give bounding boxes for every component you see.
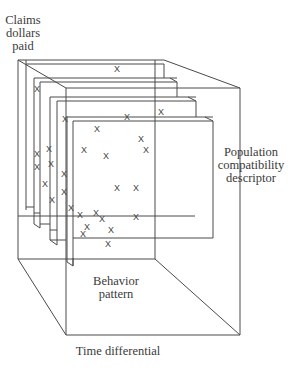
floor-label-line2: pattern [86, 288, 146, 301]
svg-text:X: X [133, 212, 139, 222]
svg-text:X: X [34, 162, 40, 172]
svg-text:X: X [61, 169, 67, 179]
svg-text:X: X [99, 214, 105, 224]
svg-text:X: X [68, 203, 74, 213]
svg-text:X: X [94, 124, 100, 134]
svg-text:X: X [114, 183, 120, 193]
plane-3 [50, 97, 196, 245]
svg-text:X: X [42, 179, 48, 189]
svg-text:X: X [124, 112, 130, 122]
svg-text:X: X [77, 210, 83, 220]
svg-text:X: X [62, 114, 68, 124]
y-axis-label: Claims dollars paid [3, 14, 43, 53]
z-axis-label-line3: descriptor [214, 172, 288, 185]
svg-text:X: X [105, 239, 111, 249]
svg-text:X: X [34, 149, 40, 159]
svg-text:X: X [49, 195, 55, 205]
z-axis-label: Population compatibility descriptor [214, 146, 288, 185]
svg-text:X: X [81, 145, 87, 155]
svg-text:X: X [138, 134, 144, 144]
svg-text:X: X [108, 225, 114, 235]
x-axis-label: Time differential [60, 345, 176, 358]
svg-text:X: X [48, 159, 54, 169]
svg-text:X: X [143, 145, 149, 155]
data-markers: X X X X X X X X X X X X X X X X X X X X … [34, 64, 164, 249]
svg-text:X: X [46, 144, 52, 154]
svg-text:X: X [114, 64, 120, 74]
svg-text:X: X [133, 183, 139, 193]
svg-text:X: X [80, 229, 86, 239]
diagonal-steps [26, 207, 57, 230]
svg-text:X: X [61, 187, 67, 197]
floor-label: Behavior pattern [86, 275, 146, 301]
svg-text:X: X [103, 151, 109, 161]
svg-text:X: X [158, 107, 164, 117]
svg-text:X: X [34, 84, 40, 94]
y-axis-label-line3: paid [3, 40, 43, 53]
